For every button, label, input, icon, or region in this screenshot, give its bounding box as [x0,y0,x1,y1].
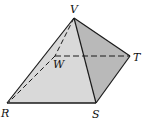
label-W: W [53,58,66,71]
label-R: R [0,107,9,120]
label-V: V [70,3,79,16]
pyramid-diagram: V W T R S [0,0,146,121]
label-T: T [133,51,142,64]
label-S: S [92,108,100,121]
